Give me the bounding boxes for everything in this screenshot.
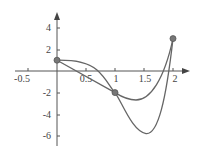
y-tick-label: 2 (46, 44, 51, 55)
point-2-3 (170, 36, 176, 42)
point-1-neg2 (112, 90, 118, 96)
x-tick-label: 1.5 (139, 73, 152, 84)
y-tick-label: -4 (43, 109, 51, 120)
data-points (54, 36, 176, 96)
y-tick-label: 4 (46, 22, 51, 33)
chart: -0.5 0.5 1 1.5 2 4 2 -2 -4 -6 (0, 0, 197, 157)
x-tick-label: 1 (114, 73, 119, 84)
x-axis-arrow-icon (182, 68, 190, 74)
y-tick-labels: 4 2 -2 -4 -6 (43, 22, 51, 141)
x-tick-label: 2 (173, 73, 178, 84)
y-tick-label: -6 (43, 130, 51, 141)
x-tick-label: -0.5 (14, 73, 30, 84)
y-axis-arrow-icon (54, 12, 60, 20)
point-0-1 (54, 57, 60, 63)
y-tick-label: -2 (43, 87, 51, 98)
